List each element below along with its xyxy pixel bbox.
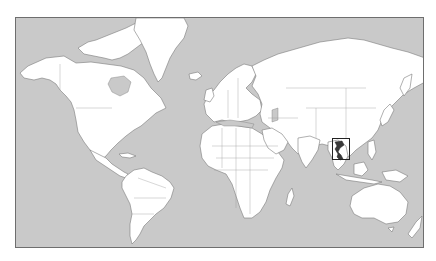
caspian-sea [272,108,278,122]
greenland [134,18,188,82]
highlight-box [332,138,350,160]
madagascar [286,188,294,206]
world-map-svg [16,18,424,248]
new-zealand [408,216,422,238]
world-map [15,17,424,248]
india [298,136,320,168]
new-guinea [382,170,408,182]
philippines [368,140,376,160]
tasmania [388,227,394,232]
cuba [119,153,136,158]
iceland [189,72,202,80]
south-america [122,168,174,244]
australia [350,184,408,224]
borneo [354,162,368,176]
